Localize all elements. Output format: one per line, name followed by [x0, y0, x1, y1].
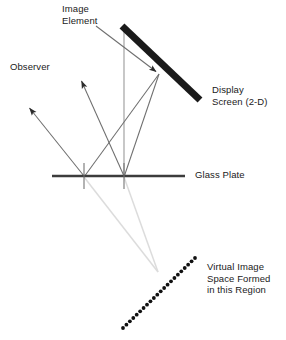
label-image-element: Image Element	[62, 3, 98, 26]
display-screen-bar	[122, 26, 200, 100]
observer-ray-1	[82, 81, 125, 176]
virtual-image-plane-dot	[166, 283, 170, 287]
virtual-image-plane-dot	[193, 256, 197, 260]
virtual-image-plane-dot	[159, 289, 163, 293]
virtual-image-plane-dot	[121, 326, 125, 330]
label-display-screen: Display Screen (2-D)	[212, 84, 268, 107]
virtual-image-plane-dot	[145, 303, 149, 307]
label-observer: Observer	[10, 61, 50, 73]
virtual-image-plane-dot	[169, 279, 173, 283]
virtual-image-plane-dot	[179, 269, 183, 273]
observer-ray-2	[30, 108, 85, 176]
label-glass-plate: Glass Plate	[195, 169, 245, 181]
observer-ray-group	[30, 81, 125, 176]
virtual-image-plane-dot	[155, 293, 159, 297]
virtual-image-plane-dot	[135, 313, 139, 317]
virtual-image-plane-dot	[176, 273, 180, 277]
virtual-image-plane-dot	[128, 319, 132, 323]
incident-ray-group	[84, 74, 159, 177]
virtual-image-plane-dot	[190, 259, 194, 263]
virtual-image-plane-dotted-line	[121, 256, 197, 330]
virtual-ray-group	[84, 177, 158, 272]
virtual-image-plane-dot	[138, 309, 142, 313]
virtual-image-plane-dot	[162, 286, 166, 290]
glass-plate-group	[52, 163, 185, 189]
incident-ray-2	[84, 74, 159, 177]
incident-ray-1	[124, 74, 159, 177]
label-virtual-image-space: Virtual Image Space Formed in this Regio…	[207, 261, 271, 296]
optical-diagram: Image Element Observer Display Screen (2…	[0, 0, 286, 340]
virtual-image-plane-dot	[186, 263, 190, 267]
virtual-image-plane-dot	[142, 306, 146, 310]
virtual-image-plane-dot	[125, 323, 129, 327]
virtual-image-plane-dot	[152, 296, 156, 300]
virtual-image-plane-dot	[183, 266, 187, 270]
virtual-image-plane-dot	[131, 316, 135, 320]
virtual-ray-1	[124, 177, 158, 272]
virtual-image-plane-dot	[173, 276, 177, 280]
virtual-image-plane-dot	[149, 299, 153, 303]
virtual-ray-2	[84, 177, 158, 272]
